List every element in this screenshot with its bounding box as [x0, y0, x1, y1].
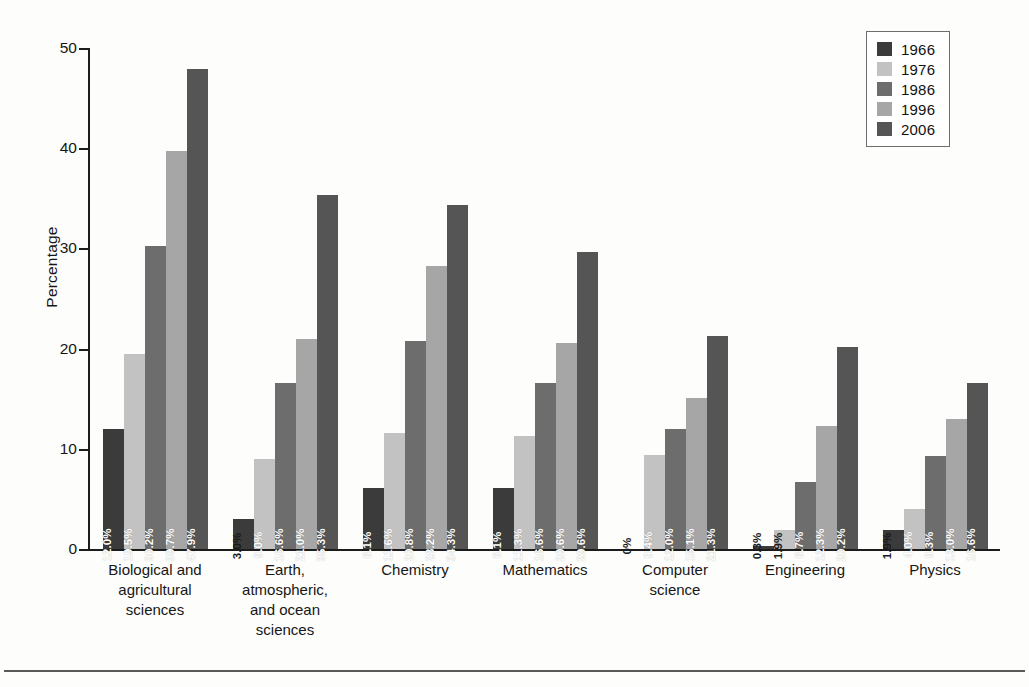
- bar: 20.6%: [556, 343, 577, 549]
- bar: 16.6%: [967, 383, 988, 549]
- bar: 11.6%: [384, 433, 405, 549]
- x-axis-category-label: Earth,atmospheric,and oceansciences: [220, 560, 350, 640]
- bar-value-label: 6.1%: [361, 532, 373, 559]
- bar-value-label: 16.6%: [965, 528, 977, 561]
- x-axis-category-label: Engineering: [740, 560, 870, 640]
- bar: 28.2%: [426, 266, 447, 549]
- legend-swatch: [877, 62, 892, 76]
- bar-value-label: 13.0%: [944, 528, 956, 561]
- bar-value-label: 1.9%: [772, 533, 784, 560]
- legend-item: 1976: [877, 59, 935, 79]
- y-tick-mark: [79, 148, 90, 150]
- legend-item: 1986: [877, 79, 935, 99]
- bar: 21.3%: [707, 336, 728, 549]
- y-tick-label: 0: [68, 540, 77, 558]
- bar-value-label: 20.6%: [554, 528, 566, 561]
- y-tick-label: 30: [60, 239, 77, 257]
- bar: 0.3%: [753, 546, 774, 549]
- legend-swatch: [877, 102, 892, 116]
- legend-label: 1976: [901, 61, 935, 78]
- bar-value-label: 12.3%: [814, 528, 826, 561]
- bar: 47.9%: [187, 69, 208, 549]
- x-axis-category-line: and ocean: [222, 600, 348, 620]
- bar-value-label: 15.1%: [684, 528, 696, 561]
- bar: 29.6%: [577, 252, 598, 549]
- y-tick-mark: [79, 549, 90, 551]
- bar: 19.5%: [124, 354, 145, 549]
- bar: 9.0%: [254, 459, 275, 549]
- x-axis-category-line: Biological and: [92, 560, 218, 580]
- x-axis-category-label: Mathematics: [480, 560, 610, 640]
- bar-value-label: 21.3%: [705, 528, 717, 561]
- legend-label: 1996: [901, 101, 935, 118]
- bar-groups: 12.0%19.5%30.2%39.7%47.9%3.0%9.0%16.6%21…: [90, 48, 1000, 549]
- y-tick-label: 10: [60, 440, 77, 458]
- bar-value-label: 20.8%: [403, 528, 415, 561]
- bar: 12.0%: [665, 429, 686, 549]
- bar: 16.6%: [535, 383, 556, 549]
- bar: 39.7%: [166, 151, 187, 549]
- bar: 9.3%: [925, 456, 946, 549]
- x-axis-category-line: Engineering: [742, 560, 868, 580]
- legend-swatch: [877, 122, 892, 136]
- bottom-divider: [4, 670, 1025, 672]
- bar: 15.1%: [686, 398, 707, 549]
- bar-group: 0%9.4%12.0%15.1%21.3%: [610, 48, 740, 549]
- y-tick-mark: [79, 48, 90, 50]
- bar-value-label: 39.7%: [164, 528, 176, 561]
- bar: 1.9%: [774, 530, 795, 549]
- x-axis-category-label: Computerscience: [610, 560, 740, 640]
- bar-value-label: 30.2%: [143, 528, 155, 561]
- bar-value-label: 20.2%: [835, 528, 847, 561]
- bar: 6.1%: [493, 488, 514, 549]
- bar: 30.2%: [145, 246, 166, 549]
- legend-swatch: [877, 42, 892, 56]
- bar-group: 3.0%9.0%16.6%21.0%35.3%: [220, 48, 350, 549]
- bar-value-label: 34.3%: [445, 528, 457, 561]
- x-axis-category-label: Biological andagriculturalsciences: [90, 560, 220, 640]
- bar-value-label: 6.1%: [491, 532, 503, 559]
- legend-swatch: [877, 82, 892, 96]
- x-axis-category-line: Chemistry: [352, 560, 478, 580]
- x-axis-category-label: Physics: [870, 560, 1000, 640]
- x-axis-category-line: Earth,: [222, 560, 348, 580]
- bar: 16.6%: [275, 383, 296, 549]
- bar: 13.0%: [946, 419, 967, 549]
- x-axis-labels: Biological andagriculturalsciencesEarth,…: [90, 560, 1000, 640]
- bar: 3.0%: [233, 519, 254, 549]
- bar-value-label: 29.6%: [575, 528, 587, 561]
- bar-value-label: 19.5%: [122, 528, 134, 561]
- y-tick-label: 20: [60, 340, 77, 358]
- legend-item: 1996: [877, 99, 935, 119]
- bar-value-label: 11.6%: [382, 529, 394, 561]
- y-axis-title: Percentage: [43, 187, 61, 347]
- x-axis-category-line: Computer: [612, 560, 738, 580]
- bar-value-label: 21.0%: [294, 528, 306, 561]
- bar-group: 6.1%11.3%16.6%20.6%29.6%: [480, 48, 610, 549]
- x-axis-category-line: atmospheric,: [222, 580, 348, 600]
- y-tick-label: 50: [60, 39, 77, 57]
- bar-value-label: 4.0%: [902, 532, 914, 559]
- bar-value-label: 11.3%: [512, 529, 524, 561]
- bar-value-label: 9.0%: [252, 532, 264, 559]
- chart-legend: 19661976198619962006: [866, 31, 950, 147]
- bar-value-label: 12.0%: [663, 528, 675, 561]
- legend-item: 2006: [877, 119, 935, 139]
- bar-value-label: 28.2%: [424, 528, 436, 561]
- x-axis-category-line: sciences: [222, 620, 348, 640]
- bar-value-label: 6.7%: [793, 532, 805, 559]
- bar: 1.9%: [883, 530, 904, 549]
- bar-group: 0.3%1.9%6.7%12.3%20.2%: [740, 48, 870, 549]
- legend-label: 1986: [901, 81, 935, 98]
- bar-value-label: 16.6%: [533, 528, 545, 561]
- bar: 20.8%: [405, 341, 426, 549]
- bar: 35.3%: [317, 195, 338, 549]
- x-axis-category-line: Physics: [872, 560, 998, 580]
- bar-value-label: 1.9%: [881, 533, 893, 560]
- bar: 9.4%: [644, 455, 665, 549]
- x-axis-category-line: Mathematics: [482, 560, 608, 580]
- y-tick-mark: [79, 349, 90, 351]
- bar-value-label: 16.6%: [273, 528, 285, 561]
- legend-item: 1966: [877, 39, 935, 59]
- legend-label: 2006: [901, 121, 935, 138]
